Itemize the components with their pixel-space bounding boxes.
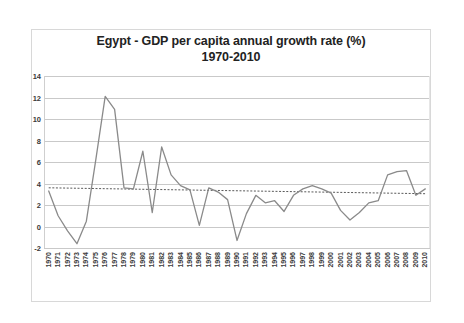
chart-title: Egypt - GDP per capita annual growth rat… — [31, 33, 431, 65]
chart-frame — [31, 29, 431, 302]
chart-title-line-1: Egypt - GDP per capita annual growth rat… — [31, 33, 431, 49]
chart-title-line-2: 1970-2010 — [31, 49, 431, 65]
